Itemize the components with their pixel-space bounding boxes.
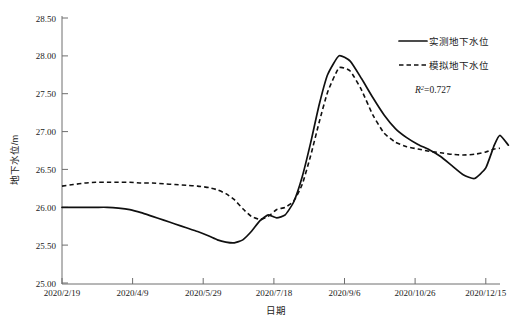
x-axis-title: 日期 (266, 305, 286, 316)
legend: 实测地下水位 模拟地下水位 R2=0.727 (399, 36, 489, 95)
y-tick-label-27-50: 27.50 (36, 89, 57, 99)
x-tick-label-3: 2020/7/18 (256, 288, 293, 298)
y-tick-label-26-00: 26.00 (36, 203, 57, 213)
chart-svg: 28.50 28.00 27.50 27.00 26.50 26.00 25.5… (0, 0, 517, 333)
y-tick-label-25-00: 25.00 (36, 279, 57, 289)
r-squared-annotation: R2=0.727 (414, 84, 451, 96)
y-tick-label-27-00: 27.00 (36, 127, 57, 137)
y-tick-label-26-50: 26.50 (36, 165, 57, 175)
plot-area (62, 56, 508, 243)
legend-label-observed: 实测地下水位 (429, 36, 489, 47)
y-tick-label-25-50: 25.50 (36, 241, 57, 251)
x-tick-label-4: 2020/9/6 (328, 288, 361, 298)
y-axis-title: 地下水位/m (9, 135, 20, 186)
y-tick-label-28-00: 28.00 (36, 51, 57, 61)
x-tick-label-1: 2020/4/9 (117, 288, 150, 298)
y-tick-label-28-50: 28.50 (36, 14, 57, 24)
x-tick-marks (62, 278, 486, 284)
r-squared-value: =0.727 (424, 85, 451, 95)
legend-label-simulated: 模拟地下水位 (429, 60, 489, 71)
y-tick-marks (62, 18, 68, 283)
y-axis: 28.50 28.00 27.50 27.00 26.50 26.00 25.5… (9, 14, 68, 289)
x-tick-label-2: 2020/5/29 (185, 288, 222, 298)
series-observed-line (62, 56, 508, 243)
x-tick-label-6: 2020/12/15 (465, 288, 507, 298)
x-tick-label-0: 2020/2/19 (44, 288, 81, 298)
x-axis: 2020/2/19 2020/4/9 2020/5/29 2020/7/18 2… (44, 278, 507, 316)
groundwater-level-chart: 28.50 28.00 27.50 27.00 26.50 26.00 25.5… (0, 0, 517, 333)
x-tick-label-5: 2020/10/26 (395, 288, 437, 298)
